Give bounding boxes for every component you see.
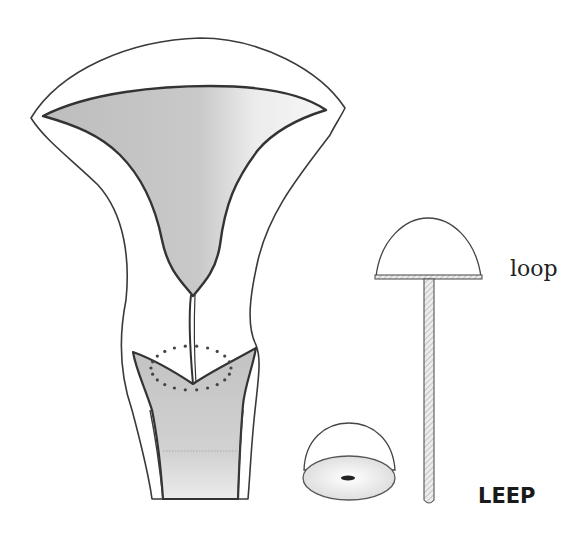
excision-dot xyxy=(195,388,198,391)
loop-wire-dome xyxy=(376,218,481,277)
excision-dot xyxy=(156,355,159,358)
excision-dot xyxy=(216,350,219,353)
excision-dot xyxy=(149,366,152,369)
excision-dot xyxy=(151,373,154,376)
excision-dot xyxy=(206,346,209,349)
canal-opening xyxy=(341,476,355,481)
leep-diagram: loop LEEP xyxy=(0,0,587,537)
excision-dot xyxy=(223,355,226,358)
excision-dot xyxy=(163,350,166,353)
excision-dot xyxy=(156,378,159,381)
excision-dot xyxy=(184,388,187,391)
excision-dot xyxy=(223,378,226,381)
loop-label: loop xyxy=(510,256,558,281)
excision-dot xyxy=(228,360,231,363)
excision-dot xyxy=(229,366,232,369)
excision-dot xyxy=(206,386,209,389)
excision-dot xyxy=(228,373,231,376)
excision-dot xyxy=(151,360,154,363)
leep-label: LEEP xyxy=(478,484,535,508)
cone-specimen xyxy=(303,423,395,500)
excision-dot xyxy=(173,386,176,389)
loop-crossbar xyxy=(375,275,482,279)
excision-dot xyxy=(216,383,219,386)
excision-dot xyxy=(184,345,187,348)
excision-dot xyxy=(163,383,166,386)
loop-handle xyxy=(424,279,434,503)
excision-dot xyxy=(195,345,198,348)
excision-dot xyxy=(173,346,176,349)
